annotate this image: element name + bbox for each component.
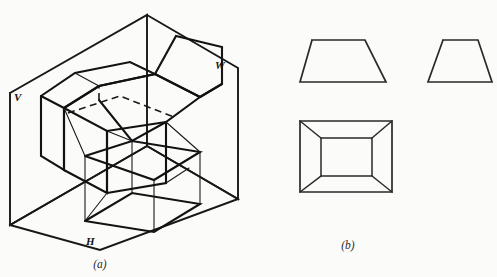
top-view-diagonal-tr [372, 121, 392, 138]
h-projection-inner [85, 141, 200, 180]
w-projection-base [200, 84, 222, 97]
object-top-outer-face [64, 74, 200, 131]
caption-panel-b: (b) [341, 239, 355, 252]
vertical-plane-outline [10, 15, 147, 225]
technical-drawing-figure: V H W (a) (b) [0, 0, 497, 277]
top-view-inner-rect [321, 138, 372, 176]
top-view-diagonal-tl [300, 121, 321, 138]
w-projection-outline [155, 36, 222, 97]
figure-canvas: V H W (a) (b) [0, 0, 497, 277]
w-projection-connector-a [155, 36, 176, 74]
plane-label-vertical: V [14, 91, 23, 103]
panel-b-orthographic: (b) [300, 40, 492, 252]
plane-label-profile: W [215, 59, 226, 71]
object-projector-mid [85, 193, 107, 221]
projection-on-w-plane [155, 36, 222, 97]
object-hidden-top-rear [68, 96, 174, 117]
panel-a-pictorial: V H W (a) [10, 15, 238, 271]
profile-plane-outline [147, 15, 238, 199]
top-view-diagonal-br [372, 176, 392, 192]
front-view-outline [300, 40, 386, 82]
top-view [300, 121, 392, 192]
side-view-outline [428, 40, 492, 82]
v-projection-connector-a [75, 73, 99, 86]
object-right-wall [107, 122, 166, 193]
top-view-diagonal-bl [300, 176, 321, 192]
plane-label-horizontal: H [85, 235, 95, 247]
object-inner-cavity-left [99, 100, 166, 141]
caption-panel-a: (a) [93, 258, 107, 271]
v-projection-connector-b [130, 62, 155, 74]
object-projector-left-front [64, 108, 85, 156]
